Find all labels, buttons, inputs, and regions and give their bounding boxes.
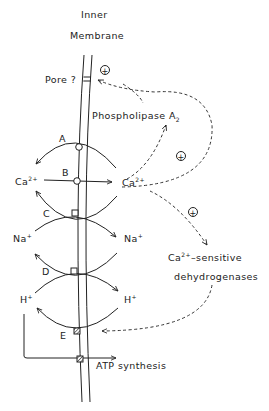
title-inner: Inner (81, 9, 108, 20)
dashed-phospholipase-to-pore (123, 84, 143, 103)
title-membrane: Membrane (70, 30, 124, 41)
plus-icon-phospholipase: + (177, 152, 186, 162)
ion-h-cytosol: H+ (124, 293, 137, 305)
arrow-E-h-efflux (37, 308, 118, 328)
plus-icon-pore: + (101, 66, 110, 76)
dashed-arrow-to-pore (98, 80, 212, 187)
ion-na-matrix: Na+ (13, 232, 32, 244)
dashed-arrow-to-E (102, 285, 212, 331)
inner-membrane (78, 55, 92, 402)
label-E: E (60, 330, 66, 341)
dehydrogenases-label-line2: dehydrogenases (174, 271, 258, 282)
dehydrogenases-label-line1: Ca2+–sensitive (168, 251, 242, 263)
atp-synthesis-label: ATP synthesis (96, 360, 166, 371)
ion-h-matrix: H+ (20, 293, 33, 305)
phospholipase-label: Phospholipase A2 (92, 110, 180, 123)
svg-text:+: + (189, 209, 196, 218)
ion-ca-matrix: Ca2+ (15, 175, 38, 187)
plus-icon-dehydrogenases: + (189, 208, 198, 218)
transporter-B (74, 178, 81, 185)
membrane-transport-diagram: Inner Membrane Pore ? + Phospholipase A2… (0, 0, 269, 411)
transporter-C (72, 210, 78, 216)
dashed-arrow-to-phospholipase (127, 125, 166, 179)
label-A: A (59, 133, 66, 144)
atp-synthase (77, 356, 83, 362)
label-C: C (43, 208, 50, 219)
label-D: D (42, 266, 50, 277)
transporter-D (71, 268, 77, 274)
label-B: B (62, 167, 69, 178)
svg-text:+: + (177, 153, 184, 162)
transporter-A (76, 144, 83, 151)
svg-text:+: + (101, 67, 108, 76)
pore-label: Pore ? (45, 74, 76, 85)
ion-na-cytosol: Na+ (124, 232, 143, 244)
dashed-arrow-to-dehydrogenases (150, 191, 207, 245)
arrow-C-na-influx (35, 217, 116, 237)
transporter-E (74, 328, 80, 334)
